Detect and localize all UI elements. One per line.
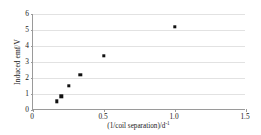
gridline <box>33 30 245 31</box>
y-axis-tick-mark <box>31 14 33 15</box>
y-axis-tick-label: 1 <box>20 90 29 98</box>
x-axis-title-exponent: -1 <box>165 120 169 126</box>
gridline <box>33 46 245 47</box>
x-axis-tick-label: 0 <box>30 112 34 121</box>
y-axis-tick-labels: 0123456 <box>20 0 29 135</box>
y-axis-tick-mark <box>31 46 33 47</box>
y-axis-tick-mark <box>31 94 33 95</box>
y-axis-tick-label: 4 <box>20 42 29 50</box>
gridline <box>33 94 245 95</box>
scatter-chart-figure: Induced emf/V 0123456 00.51.01.5 (1/coil… <box>0 0 261 135</box>
data-point <box>173 25 176 28</box>
x-axis-tick-label: 1.0 <box>169 112 178 121</box>
y-axis-tick-label: 3 <box>20 58 29 66</box>
data-point <box>60 95 63 98</box>
y-axis-tick-label: 6 <box>20 10 29 18</box>
data-point <box>102 54 105 57</box>
data-point <box>55 99 58 102</box>
x-axis-title: (1/coil separation)/d-1 <box>32 121 245 131</box>
y-axis-tick-label: 5 <box>20 26 29 34</box>
gridline <box>33 14 245 15</box>
plot-area <box>32 14 245 110</box>
y-axis-tick-label: 0 <box>20 106 29 114</box>
y-axis-tick-mark <box>31 30 33 31</box>
data-point <box>67 84 70 87</box>
x-axis-tick-label: 1.5 <box>240 112 249 121</box>
x-axis-tick-label: 0.5 <box>98 112 107 121</box>
data-point <box>79 73 82 76</box>
gridline <box>33 78 245 79</box>
gridline <box>33 62 245 63</box>
x-axis-title-text: (1/coil separation)/d <box>107 122 165 130</box>
y-axis-tick-label: 2 <box>20 74 29 82</box>
y-axis-tick-mark <box>31 62 33 63</box>
y-axis-tick-mark <box>31 78 33 79</box>
